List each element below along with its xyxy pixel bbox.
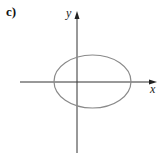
coordinate-plot: y x <box>0 0 160 159</box>
figure: c) y x <box>0 0 160 159</box>
y-axis-label: y <box>65 6 72 20</box>
x-axis-label: x <box>149 82 156 96</box>
y-axis-arrow-icon <box>75 11 80 19</box>
